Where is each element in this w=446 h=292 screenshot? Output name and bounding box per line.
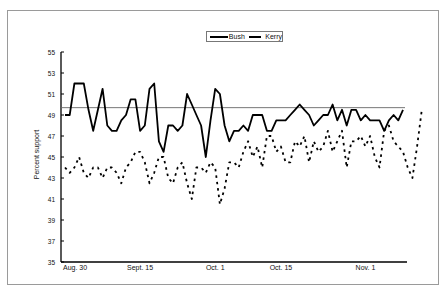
y-tick-label: 47 [48, 133, 56, 140]
x-tick-label: Aug. 30 [63, 264, 87, 272]
x-tick-label: Nov. 1 [356, 264, 376, 271]
line-chart-plot: 3537394143454749515355Aug. 30Sept. 15Oct… [0, 0, 446, 292]
series-line-kerry [65, 110, 422, 205]
x-tick-label: Oct. 15 [270, 264, 293, 271]
y-tick-label: 41 [48, 196, 56, 203]
y-tick-label: 37 [48, 238, 56, 245]
x-tick-label: Sept. 15 [127, 264, 153, 272]
y-tick-label: 51 [48, 91, 56, 98]
y-tick-label: 55 [48, 49, 56, 56]
y-tick-label: 35 [48, 259, 56, 266]
y-tick-label: 43 [48, 175, 56, 182]
y-tick-label: 39 [48, 217, 56, 224]
y-tick-label: 49 [48, 112, 56, 119]
y-tick-label: 53 [48, 70, 56, 77]
x-tick-label: Oct. 1 [206, 264, 225, 271]
series-line-bush [65, 84, 403, 158]
y-tick-label: 45 [48, 154, 56, 161]
